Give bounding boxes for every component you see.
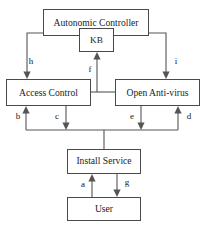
- access-control-label: Access Control: [19, 87, 78, 98]
- user-label: User: [95, 203, 114, 214]
- edge-g: [113, 174, 120, 197]
- edge-label-b: b: [16, 111, 21, 121]
- bottom-connector-bus: [26, 130, 178, 149]
- edge-i: [149, 33, 170, 79]
- node-open-anti-virus[interactable]: Open Anti-virus: [116, 80, 200, 106]
- edge-label-d: d: [187, 111, 192, 121]
- edge-e-arrowhead: [137, 123, 144, 131]
- diagram-canvas: Autonomic Controller KB Access Control O…: [0, 0, 206, 227]
- kb-label: KB: [90, 35, 103, 45]
- edge-f: [93, 52, 100, 92]
- edge-e: [137, 106, 144, 130]
- open-anti-virus-label: Open Anti-virus: [126, 87, 188, 98]
- edge-label-i: i: [175, 56, 178, 66]
- architecture-diagram: Autonomic Controller KB Access Control O…: [0, 0, 206, 227]
- edge-label-c: c: [55, 111, 59, 121]
- edge-h-line: [27, 33, 43, 72]
- edge-g-arrowhead: [113, 190, 120, 198]
- edge-c: [62, 106, 69, 130]
- node-access-control[interactable]: Access Control: [7, 80, 91, 106]
- edge-label-e: e: [130, 111, 134, 121]
- autonomic-controller-label: Autonomic Controller: [54, 17, 140, 28]
- edge-a: [88, 174, 95, 197]
- edge-h-arrowhead: [23, 72, 30, 80]
- edge-i-arrowhead: [162, 72, 169, 80]
- edge-d: [174, 106, 181, 130]
- node-user[interactable]: User: [68, 198, 141, 221]
- edge-label-h: h: [29, 56, 34, 66]
- edge-a-arrowhead: [88, 174, 95, 182]
- edge-i-line: [149, 33, 166, 72]
- node-install-service[interactable]: Install Service: [68, 150, 141, 174]
- edge-b-arrowhead: [22, 106, 29, 114]
- install-service-label: Install Service: [76, 155, 131, 166]
- edge-label-g: g: [125, 177, 130, 187]
- edge-f-arrowhead: [93, 52, 100, 60]
- edge-c-arrowhead: [62, 123, 69, 131]
- edge-label-a: a: [81, 179, 85, 189]
- edge-b: [22, 106, 29, 130]
- edge-label-f: f: [89, 64, 92, 74]
- node-kb[interactable]: KB: [80, 29, 114, 52]
- edge-d-arrowhead: [174, 106, 181, 114]
